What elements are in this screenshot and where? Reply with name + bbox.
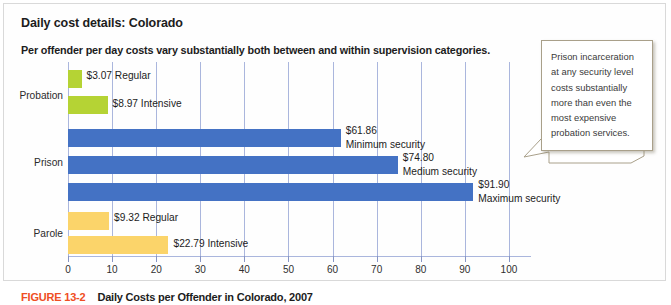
bar-label-prison-maximum-security: $91.90 bbox=[478, 179, 509, 190]
bar-label-probation-regular: $3.07 Regular bbox=[87, 70, 151, 81]
x-tick-label-50: 50 bbox=[283, 264, 294, 275]
panel-subtitle: Per offender per day costs vary substant… bbox=[21, 44, 490, 56]
page-title: Daily cost details: Colorado bbox=[21, 16, 183, 30]
figure-page: Daily cost details: Colorado Per offende… bbox=[0, 0, 671, 305]
bar-label-prison-minimum-security: Minimum security bbox=[346, 139, 425, 150]
bar-label-probation-intensive: $8.97 Intensive bbox=[113, 98, 182, 109]
x-tick-10 bbox=[112, 256, 113, 262]
bar-label-parole-intensive: $22.79 Intensive bbox=[173, 238, 248, 249]
x-tick-label-30: 30 bbox=[195, 264, 206, 275]
bar-prison-maximum-security bbox=[68, 183, 473, 201]
figure-caption: FIGURE 13-2Daily Costs per Offender in C… bbox=[21, 291, 313, 303]
bar-label-prison-maximum-security: Maximum security bbox=[478, 193, 560, 204]
x-tick-80 bbox=[421, 256, 422, 262]
x-tick-100 bbox=[509, 256, 510, 262]
bar-label-parole-regular: $9.32 Regular bbox=[114, 212, 178, 223]
category-label-parole: Parole bbox=[34, 228, 63, 239]
x-tick-0 bbox=[68, 256, 69, 262]
bar-parole-regular bbox=[68, 212, 109, 230]
x-tick-label-0: 0 bbox=[65, 264, 71, 275]
x-tick-90 bbox=[465, 256, 466, 262]
figure-number: FIGURE 13-2 bbox=[21, 291, 85, 303]
x-tick-label-100: 100 bbox=[501, 264, 518, 275]
figure-caption-text: Daily Costs per Offender in Colorado, 20… bbox=[97, 291, 312, 303]
bar-parole-intensive bbox=[68, 236, 168, 254]
x-axis-line bbox=[68, 256, 531, 257]
bar-probation-intensive bbox=[68, 96, 108, 114]
x-tick-40 bbox=[244, 256, 245, 262]
x-tick-label-40: 40 bbox=[239, 264, 250, 275]
bar-prison-medium-security bbox=[68, 156, 398, 174]
x-tick-50 bbox=[288, 256, 289, 262]
bar-prison-minimum-security bbox=[68, 129, 341, 147]
gridline-90 bbox=[465, 62, 466, 256]
x-tick-20 bbox=[156, 256, 157, 262]
bar-label-prison-medium-security: $74.80 bbox=[403, 152, 434, 163]
x-tick-label-70: 70 bbox=[371, 264, 382, 275]
bar-label-prison-minimum-security: $61.86 bbox=[346, 125, 377, 136]
gridline-100 bbox=[509, 62, 510, 256]
callout-box: Prison incarceration at any security lev… bbox=[541, 40, 653, 151]
bar-probation-regular bbox=[68, 70, 82, 88]
bar-label-prison-medium-security: Medium security bbox=[403, 166, 477, 177]
x-tick-label-10: 10 bbox=[107, 264, 118, 275]
x-tick-30 bbox=[200, 256, 201, 262]
x-tick-label-80: 80 bbox=[415, 264, 426, 275]
x-tick-label-20: 20 bbox=[151, 264, 162, 275]
x-tick-label-60: 60 bbox=[327, 264, 338, 275]
x-tick-60 bbox=[333, 256, 334, 262]
x-tick-70 bbox=[377, 256, 378, 262]
category-label-prison: Prison bbox=[34, 157, 63, 168]
x-tick-label-90: 90 bbox=[459, 264, 470, 275]
category-label-probation: Probation bbox=[19, 90, 63, 101]
